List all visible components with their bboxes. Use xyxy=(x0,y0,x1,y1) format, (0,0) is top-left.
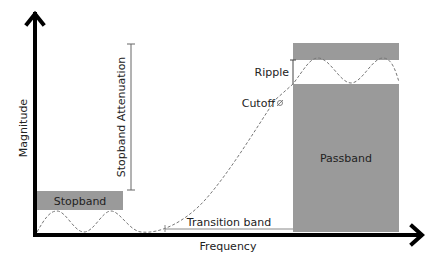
stopband-attenuation-label: Stopband Attenuation xyxy=(115,57,128,178)
transition-band-label: Transition band xyxy=(186,216,271,229)
passband-ripple-upper-block xyxy=(293,43,399,60)
cutoff-label: Cutoff xyxy=(242,97,276,110)
y-axis-label: Magnitude xyxy=(17,99,30,158)
passband-label: Passband xyxy=(320,152,372,165)
filter-response-diagram: Stopband Passband Transition band Ripple… xyxy=(0,0,443,263)
stopband-label: Stopband xyxy=(54,195,107,208)
x-axis-label: Frequency xyxy=(200,240,257,253)
stopband-attenuation-dimension xyxy=(127,44,135,190)
ripple-label: Ripple xyxy=(255,66,290,79)
